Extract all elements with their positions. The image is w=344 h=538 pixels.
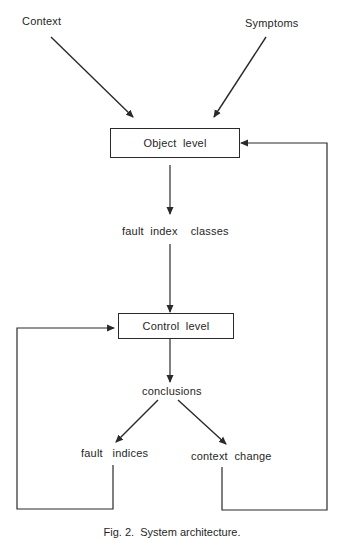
- feedback-loop-fault-indices-to-control-level: [17, 328, 114, 509]
- context-label: Context: [22, 15, 61, 27]
- object-level-box: Object level: [110, 128, 240, 158]
- control-level-box: Control level: [118, 313, 234, 339]
- arrow-conclusions-to-context-change: [178, 400, 226, 444]
- context-change-label: context change: [191, 450, 272, 462]
- arrow-symptoms-to-object-level: [214, 37, 266, 117]
- arrow-context-to-object-level: [51, 37, 133, 117]
- figure-caption: Fig. 2. System architecture.: [0, 526, 344, 538]
- symptoms-label: Symptoms: [245, 17, 299, 29]
- fault-index-classes-label: fault index classes: [122, 225, 229, 237]
- arrow-conclusions-to-fault-indices: [116, 400, 158, 442]
- conclusions-label: conclusions: [142, 385, 202, 397]
- fault-indices-label: fault indices: [81, 447, 148, 459]
